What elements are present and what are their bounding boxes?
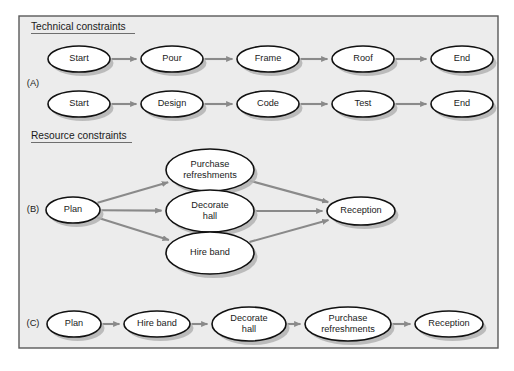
precedence-diagram: Technical constraintsResource constraint… xyxy=(0,0,514,371)
heading-technical: Technical constraints xyxy=(31,21,135,34)
node-label-a2-end: End xyxy=(454,98,470,108)
heading-text-technical: Technical constraints xyxy=(31,21,126,32)
node-label-c-purchase: Purchase xyxy=(329,313,368,323)
node-a1-start[interactable]: Start xyxy=(48,46,110,72)
node-a2-code[interactable]: Code xyxy=(237,91,299,117)
node-b-reception[interactable]: Reception xyxy=(327,197,395,225)
node-label-b-purchase: refreshments xyxy=(183,170,237,180)
node-label-b-reception: Reception xyxy=(340,205,381,215)
node-a2-design[interactable]: Design xyxy=(141,91,203,117)
node-label-c-hire: Hire band xyxy=(137,318,177,328)
node-b-decorate[interactable]: Decoratehall xyxy=(166,190,254,232)
node-label-b-plan: Plan xyxy=(64,204,82,214)
group-label-A: (A) xyxy=(27,78,39,88)
node-label-a1-end: End xyxy=(454,53,470,63)
node-a1-frame[interactable]: Frame xyxy=(237,46,299,72)
heading-resource: Resource constraints xyxy=(31,130,132,143)
node-c-plan[interactable]: Plan xyxy=(47,311,101,337)
node-a2-test[interactable]: Test xyxy=(332,91,394,117)
node-label-a1-frame: Frame xyxy=(255,53,282,63)
node-label-b-decorate: Decorate xyxy=(191,200,228,210)
node-label-a2-code: Code xyxy=(257,98,279,108)
node-label-a2-start: Start xyxy=(69,98,89,108)
node-b-plan[interactable]: Plan xyxy=(46,197,100,223)
node-c-purchase[interactable]: Purchaserefreshments xyxy=(305,307,391,341)
node-label-c-purchase: refreshments xyxy=(321,324,375,334)
node-label-b-hire: Hire band xyxy=(190,247,230,257)
node-a2-end[interactable]: End xyxy=(431,91,493,117)
node-label-a2-test: Test xyxy=(355,98,372,108)
node-a1-pour[interactable]: Pour xyxy=(141,46,203,72)
node-a1-roof[interactable]: Roof xyxy=(332,46,394,72)
node-c-hire[interactable]: Hire band xyxy=(124,311,190,337)
node-label-a1-start: Start xyxy=(69,53,89,63)
node-a2-start[interactable]: Start xyxy=(48,91,110,117)
node-label-b-purchase: Purchase xyxy=(191,159,230,169)
node-a1-end[interactable]: End xyxy=(431,46,493,72)
group-label-C: (C) xyxy=(27,318,40,328)
node-label-c-reception: Reception xyxy=(428,318,469,328)
heading-text-resource: Resource constraints xyxy=(31,130,127,141)
node-c-decorate[interactable]: Decoratehall xyxy=(212,307,286,341)
node-c-reception[interactable]: Reception xyxy=(415,311,483,337)
node-label-b-decorate: hall xyxy=(203,211,217,221)
node-b-hire[interactable]: Hire band xyxy=(166,232,254,274)
node-label-a2-design: Design xyxy=(158,98,187,108)
node-label-a1-pour: Pour xyxy=(162,53,181,63)
group-label-B: (B) xyxy=(27,204,39,214)
node-label-c-decorate: hall xyxy=(242,324,256,334)
diagram-canvas: Technical constraintsResource constraint… xyxy=(0,0,514,371)
node-label-c-plan: Plan xyxy=(65,318,83,328)
node-label-a1-roof: Roof xyxy=(353,53,373,63)
node-b-purchase[interactable]: Purchaserefreshments xyxy=(166,149,254,191)
node-label-c-decorate: Decorate xyxy=(230,313,267,323)
